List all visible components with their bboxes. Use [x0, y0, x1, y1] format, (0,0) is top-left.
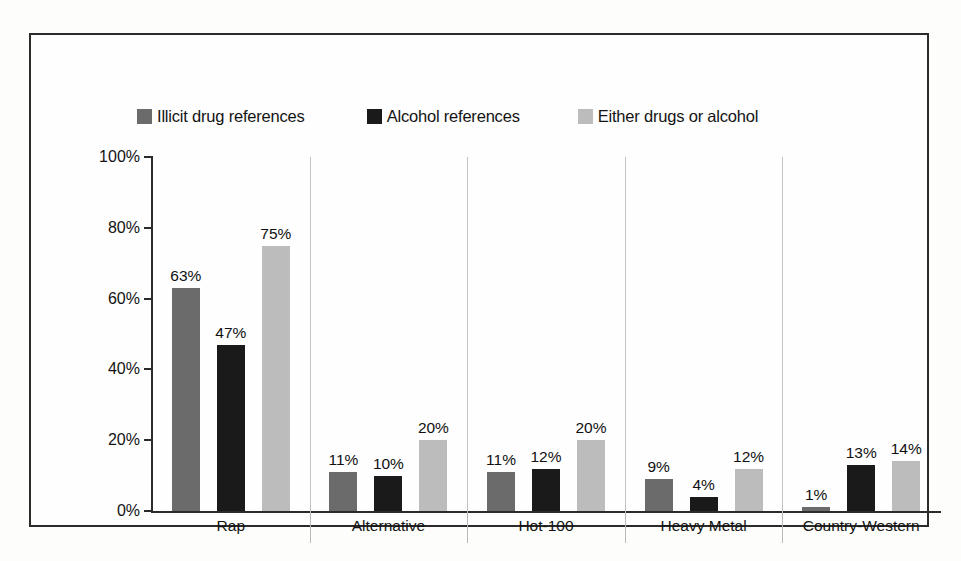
x-axis-line — [151, 511, 941, 513]
bar-value-label: 14% — [891, 441, 922, 457]
x-axis-label: Heavy Metal — [661, 517, 747, 535]
group-separator-tick — [310, 511, 311, 543]
bar: 75% — [262, 246, 290, 512]
group-separator — [467, 157, 468, 511]
bar-value-label: 20% — [575, 420, 606, 436]
legend-item-either-drugs-or-alcohol: Either drugs or alcohol — [578, 107, 759, 126]
y-tick-label: 20% — [108, 432, 140, 448]
group-separator — [625, 157, 626, 511]
chart-frame: Illicit drug references Alcohol referenc… — [29, 33, 929, 527]
legend-label-alcohol-references: Alcohol references — [387, 107, 520, 126]
y-tick-mark — [144, 368, 153, 370]
bar: 4% — [690, 497, 718, 511]
bar-value-label: 47% — [215, 325, 246, 341]
bar-value-label: 20% — [418, 420, 449, 436]
bar: 12% — [532, 469, 560, 511]
bar: 11% — [487, 472, 515, 511]
x-axis-label: Hot-100 — [518, 517, 573, 535]
bar-value-label: 75% — [260, 226, 291, 242]
bar-value-label: 11% — [328, 452, 358, 468]
bar-value-label: 1% — [805, 487, 827, 503]
bar: 1% — [802, 507, 830, 511]
bar-value-label: 13% — [846, 445, 877, 461]
group-separator — [782, 157, 783, 511]
x-axis-label: Rap — [217, 517, 245, 535]
y-tick-mark — [144, 156, 153, 158]
y-tick-mark — [144, 439, 153, 441]
x-axis-label: Country-Western — [803, 517, 920, 535]
y-tick-label: 100% — [99, 149, 140, 165]
y-tick-label: 0% — [117, 503, 140, 519]
bar: 9% — [645, 479, 673, 511]
bar: 12% — [735, 469, 763, 511]
plot-inner: 0%20%40%60%80%100% 63%47%75%11%10%20%11%… — [152, 157, 940, 511]
legend-label-either-drugs-or-alcohol: Either drugs or alcohol — [598, 107, 759, 126]
legend-swatch-alcohol-references — [367, 109, 382, 124]
legend-item-illicit-drug-references: Illicit drug references — [137, 107, 305, 126]
group-separator-tick — [625, 511, 626, 543]
legend-label-illicit-drug-references: Illicit drug references — [157, 107, 305, 126]
plot-area: 0%20%40%60%80%100% 63%47%75%11%10%20%11%… — [152, 157, 940, 511]
legend-swatch-either-drugs-or-alcohol — [578, 109, 593, 124]
y-tick-label: 80% — [108, 220, 140, 236]
bar-value-label: 12% — [530, 449, 561, 465]
bar: 20% — [419, 440, 447, 511]
y-tick-mark — [144, 298, 153, 300]
bar-value-label: 10% — [373, 456, 404, 472]
bar: 14% — [892, 461, 920, 511]
bar-value-label: 4% — [692, 477, 714, 493]
y-tick-label: 60% — [108, 291, 140, 307]
group-separator-tick — [467, 511, 468, 543]
bar: 20% — [577, 440, 605, 511]
bar: 11% — [329, 472, 357, 511]
bar: 47% — [217, 345, 245, 511]
bar: 13% — [847, 465, 875, 511]
bar-value-label: 11% — [486, 452, 516, 468]
bar-value-label: 63% — [170, 268, 201, 284]
x-axis-label: Alternative — [352, 517, 425, 535]
legend-swatch-illicit-drug-references — [137, 109, 152, 124]
bar: 10% — [374, 476, 402, 511]
y-tick-mark — [144, 510, 153, 512]
legend-item-alcohol-references: Alcohol references — [367, 107, 520, 126]
y-axis-line — [151, 157, 153, 512]
chart-legend: Illicit drug references Alcohol referenc… — [131, 101, 891, 131]
y-tick-label: 40% — [108, 361, 140, 377]
bar: 63% — [172, 288, 200, 511]
y-tick-mark — [144, 227, 153, 229]
group-separator — [310, 157, 311, 511]
bar-value-label: 9% — [647, 459, 669, 475]
group-separator-tick — [782, 511, 783, 543]
chart-figure: Illicit drug references Alcohol referenc… — [0, 0, 961, 561]
bar-value-label: 12% — [733, 449, 764, 465]
